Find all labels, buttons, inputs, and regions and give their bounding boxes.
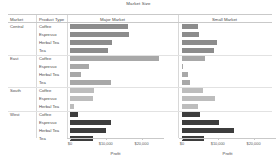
bar-east-tea-small[interactable] [182,80,190,85]
bar-south-espresso-small[interactable] [182,96,215,101]
axis-tickmark [218,138,219,140]
market-group-divider [8,87,272,88]
market-size-chart: Market Size Market Product Type Major Ma… [0,0,277,163]
bar-west-espresso-small[interactable] [182,120,219,125]
header-underline [8,22,272,23]
bar-west-coffee-major[interactable] [70,112,78,117]
bar-east-espresso-major[interactable] [70,64,89,69]
bar-central-espresso-small[interactable] [182,32,199,37]
bar-west-herbal-tea-small[interactable] [182,128,234,133]
header-product-type: Product Type [39,17,64,22]
bar-east-herbal-tea-major[interactable] [70,72,81,77]
chart-title: Market Size [0,1,277,6]
bar-east-herbal-tea-small[interactable] [182,72,188,77]
product-type-label: Tea [39,48,46,53]
column-divider [67,14,68,138]
product-type-label: Coffee [39,24,51,29]
product-type-label: Coffee [39,56,51,61]
market-label-south: South [10,88,21,93]
axis-tick-label: $20,000 [246,141,262,146]
column-divider [36,14,37,138]
market-label-west: West [10,112,19,117]
axis-line-major [67,138,164,139]
bar-central-tea-small[interactable] [182,48,214,53]
axis-tick-label: $20,000 [134,141,150,146]
product-type-label: Herbal Tea [39,72,59,77]
product-type-label: Coffee [39,112,51,117]
column-divider [178,14,179,138]
product-type-label: Tea [39,80,46,85]
bar-east-espresso-small[interactable] [182,64,183,69]
product-type-label: Tea [39,136,46,141]
product-type-label: Espresso [39,96,56,101]
axis-tickmark [106,138,107,140]
market-label-east: East [10,56,18,61]
bar-central-tea-major[interactable] [70,48,108,53]
bar-east-coffee-major[interactable] [70,56,159,61]
axis-tick-label: $0 [62,141,78,146]
axis-title-small: Profit [179,151,276,156]
market-label-central: Central [10,24,24,29]
bar-east-coffee-small[interactable] [182,56,205,61]
axis-tickmark [70,138,71,140]
axis-tick-label: $0 [174,141,190,146]
bar-west-coffee-small[interactable] [182,112,200,117]
bar-south-coffee-major[interactable] [70,88,94,93]
product-type-label: Coffee [39,88,51,93]
bar-south-espresso-major[interactable] [70,96,93,101]
bar-central-espresso-major[interactable] [70,32,129,37]
axis-tick-label: $10,000 [98,141,114,146]
bar-central-herbal-tea-major[interactable] [70,40,112,45]
bar-central-coffee-major[interactable] [70,24,128,29]
bar-west-espresso-major[interactable] [70,120,111,125]
axis-line-small [179,138,276,139]
bar-central-herbal-tea-small[interactable] [182,40,217,45]
bar-south-coffee-small[interactable] [182,88,203,93]
bar-east-tea-major[interactable] [70,80,111,85]
product-type-label: Herbal Tea [39,40,59,45]
bar-west-herbal-tea-major[interactable] [70,128,106,133]
bar-south-herbal-tea-small[interactable] [182,104,198,109]
axis-tickmark [254,138,255,140]
product-type-label: Espresso [39,32,56,37]
header-top-rule [8,14,272,15]
bar-south-herbal-tea-major[interactable] [70,104,74,109]
axis-tick-label: $10,000 [210,141,226,146]
header-market: Market [10,17,23,22]
product-type-label: Herbal Tea [39,104,59,109]
axis-tickmark [182,138,183,140]
axis-tickmark [142,138,143,140]
product-type-label: Herbal Tea [39,128,59,133]
product-type-label: Espresso [39,120,56,125]
market-group-divider [8,111,272,112]
bar-central-coffee-small[interactable] [182,24,198,29]
axis-title-major: Profit [67,151,164,156]
product-type-label: Espresso [39,64,56,69]
